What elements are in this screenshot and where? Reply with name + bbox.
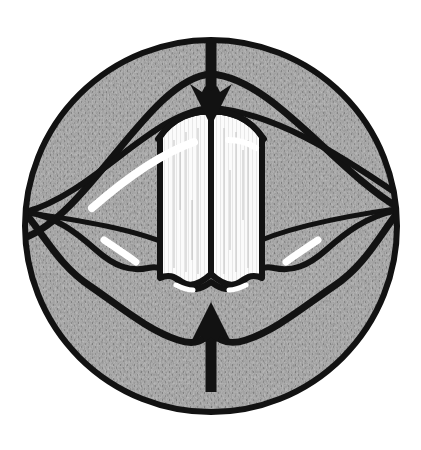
vocal-folds-group — [158, 112, 264, 285]
figure-root: Circular laryngoscopic illustration show… — [0, 0, 421, 450]
anatomical-diagram — [0, 0, 421, 450]
inferior-arrow-shaft — [206, 332, 217, 392]
